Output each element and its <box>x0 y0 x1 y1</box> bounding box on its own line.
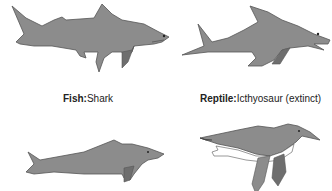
dolphin-eye <box>147 151 149 153</box>
animal-name: Icthyosaur (extinct) <box>237 93 321 104</box>
dolphin-illustration <box>24 130 164 190</box>
ichthyosaur-illustration <box>178 0 332 80</box>
ichthyosaur-body <box>182 6 330 66</box>
penguin-illustration <box>198 122 332 191</box>
penguin-foot <box>272 154 286 186</box>
shark-illustration <box>4 0 169 80</box>
penguin-eye <box>298 130 300 132</box>
dolphin-body <box>26 140 164 180</box>
label-fish-shark: Fish:Shark <box>63 93 113 104</box>
shark-eye <box>163 35 165 37</box>
shark-body <box>12 4 169 72</box>
label-reptile-ichthyosaur: Reptile:Icthyosaur (extinct) <box>200 93 321 104</box>
ichthyosaur-eye <box>317 33 319 35</box>
category-label: Reptile <box>200 93 233 104</box>
category-label: Fish <box>63 93 84 104</box>
animal-name: Shark <box>87 93 113 104</box>
